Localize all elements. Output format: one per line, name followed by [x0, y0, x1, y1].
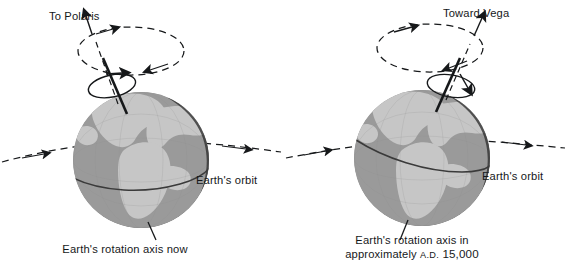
- panel-earth-axis-ad15000: Toward Vega Earth's orbit Earth's rotati…: [284, 0, 567, 266]
- star-label-vega: Toward Vega: [443, 7, 509, 20]
- caption-axis-now: Earth's rotation axis now: [0, 243, 250, 256]
- orbit-label-right: Earth's orbit: [482, 170, 543, 183]
- caption-epoch-prefix: approximately: [345, 248, 417, 260]
- orbit-label-left: Earth's orbit: [196, 174, 257, 187]
- caption-line-2: approximately A.D. 15,000: [302, 247, 522, 262]
- panel-right-graphics: [284, 0, 567, 266]
- caption-epoch-year: 15,000: [442, 247, 478, 260]
- precession-figure: To Polaris Earth's orbit Earth's rotatio…: [0, 0, 567, 266]
- earth-globe-now: [73, 92, 236, 228]
- panel-left-graphics: [0, 0, 283, 266]
- precession-circle-ad15000: [377, 24, 483, 72]
- caption-line-1: Earth's rotation axis in: [302, 234, 522, 247]
- precession-circle-now: [78, 27, 184, 75]
- caption-axis-ad15000: Earth's rotation axis in approximately A…: [302, 234, 522, 262]
- caption-epoch-era: A.D.: [420, 250, 439, 260]
- star-label-polaris: To Polaris: [49, 10, 100, 23]
- panel-earth-axis-now: To Polaris Earth's orbit Earth's rotatio…: [0, 0, 283, 266]
